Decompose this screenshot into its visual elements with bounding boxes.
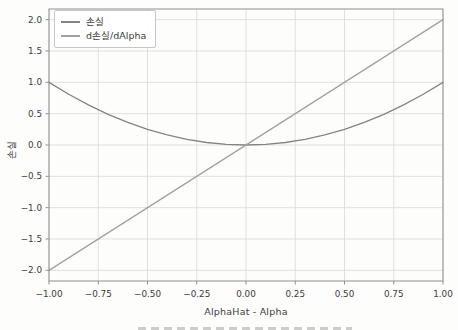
x-tick-label: −0.25	[183, 289, 210, 299]
y-tick-label: −2.0	[21, 265, 43, 275]
x-axis-label: AlphaHat - Alpha	[49, 306, 443, 317]
y-tick-label: −0.5	[21, 171, 42, 181]
x-tick-label: 1.00	[433, 289, 453, 299]
y-tick-label: −1.0	[21, 203, 43, 213]
x-tick-label: 0.00	[236, 289, 256, 299]
legend-item-loss: 손실	[61, 15, 148, 29]
x-tick-label: 0.25	[285, 289, 305, 299]
x-tick-label: 0.50	[335, 289, 355, 299]
y-tick-label: 2.0	[28, 15, 42, 25]
y-tick-label: −1.5	[21, 234, 42, 244]
plot-canvas: −1.00−0.75−0.50−0.250.000.250.500.751.00…	[0, 0, 458, 330]
x-tick-label: −0.50	[134, 289, 161, 299]
y-tick-label: 0.0	[28, 140, 42, 150]
x-tick-label: 0.75	[384, 289, 404, 299]
legend-label-loss: 손실	[86, 15, 104, 29]
x-tick-label: −0.75	[85, 289, 112, 299]
x-tick-label: −1.00	[36, 289, 63, 299]
y-tick-label: 1.5	[28, 46, 42, 56]
loss-derivative-figure: −1.00−0.75−0.50−0.250.000.250.500.751.00…	[0, 0, 458, 330]
legend-item-derivative: d손실/dAlpha	[61, 29, 148, 43]
legend-label-derivative: d손실/dAlpha	[86, 29, 146, 43]
derivative-line-swatch	[61, 35, 80, 37]
y-tick-label: 0.5	[28, 109, 42, 119]
legend: 손실 d손실/dAlpha	[54, 10, 156, 48]
y-tick-label: 1.0	[28, 77, 42, 87]
y-axis-label: 손실	[4, 141, 18, 159]
loss-line-swatch	[61, 21, 80, 23]
